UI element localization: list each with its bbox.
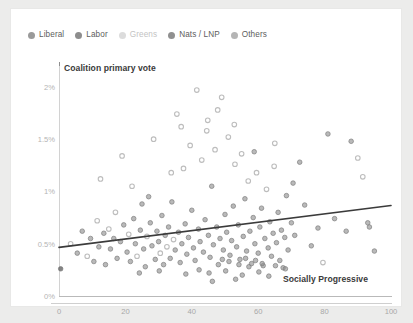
scatter-point [179, 124, 184, 129]
legend-item-nats-lnp[interactable]: Nats / LNP [168, 30, 220, 40]
x-tick-label: 60 [254, 307, 262, 316]
scatter-point [131, 216, 136, 221]
scatter-point [273, 141, 278, 146]
scatter-point [224, 230, 229, 235]
scatter-point [143, 264, 148, 269]
scatter-point [138, 228, 143, 233]
legend-item-label: Liberal [39, 30, 64, 40]
scatter-point [233, 277, 238, 282]
scatter-point [241, 234, 246, 239]
x-axis-baseline [51, 303, 392, 304]
scatter-point [180, 241, 185, 246]
scatter-point [186, 235, 191, 240]
legend-item-label: Nats / LNP [179, 30, 220, 40]
scatter-point [316, 226, 321, 231]
scatter-point [233, 162, 238, 167]
scatter-point [254, 170, 259, 175]
y-axis-ticks: 0%0.5%1%1.5%2% [11, 66, 55, 296]
chart-card: LiberalLaborGreensNats / LNPOthers Coali… [11, 9, 401, 306]
scatter-point [256, 251, 261, 256]
scatter-point [266, 246, 271, 251]
scatter-point [226, 135, 231, 140]
x-axis-line [59, 296, 392, 297]
legend-item-others[interactable]: Others [231, 30, 267, 40]
scatter-point [140, 202, 145, 207]
scatter-point [198, 239, 203, 244]
scatter-point [277, 258, 282, 263]
scatter-point [332, 216, 337, 221]
scatter-point [297, 160, 302, 165]
scatter-point [232, 122, 237, 127]
scatter-point [263, 236, 268, 241]
scatter-point [158, 251, 163, 256]
scatter-point [247, 264, 252, 269]
scatter-point [170, 200, 175, 205]
scatter-data-layer [59, 66, 391, 296]
scatter-point [103, 262, 108, 267]
scatter-point [291, 181, 296, 186]
scatter-point [146, 194, 151, 199]
legend-item-liberal[interactable]: Liberal [28, 30, 64, 40]
scatter-point [169, 170, 174, 175]
scatter-point [271, 231, 276, 236]
legend-swatch-icon [168, 32, 175, 39]
scatter-point [209, 184, 214, 189]
scatter-point [326, 132, 331, 137]
legend-item-labor[interactable]: Labor [75, 30, 107, 40]
legend-swatch-icon [231, 32, 238, 39]
scatter-point [367, 225, 372, 230]
legend-item-greens[interactable]: Greens [119, 30, 157, 40]
scatter-point [243, 256, 248, 261]
scatter-point [238, 257, 243, 262]
scatter-point [190, 208, 195, 213]
scatter-point [80, 229, 85, 234]
scatter-point [286, 248, 291, 253]
scatter-point [248, 229, 253, 234]
scatter-point [126, 232, 131, 237]
x-tick-label: 20 [121, 307, 129, 316]
scatter-point [168, 256, 173, 261]
scatter-point [260, 261, 265, 266]
scatter-point [92, 259, 97, 264]
scatter-point [165, 245, 170, 250]
scatter-point [210, 279, 215, 284]
y-tick-label: 1.5% [38, 135, 55, 144]
legend-swatch-icon [28, 32, 35, 39]
scatter-point [274, 240, 279, 245]
scatter-point [284, 193, 289, 198]
scatter-point [201, 250, 206, 255]
scatter-point [243, 196, 248, 201]
scatter-point [153, 257, 158, 262]
scatter-point [356, 156, 361, 161]
scatter-point [193, 258, 198, 263]
scatter-point [107, 227, 112, 232]
scatter-point [130, 184, 135, 189]
scatter-point [372, 249, 377, 254]
scatter-point [205, 118, 210, 123]
scatter-point [135, 254, 140, 259]
scatter-point [282, 235, 287, 240]
chart-page: LiberalLaborGreensNats / LNPOthers Coali… [0, 0, 413, 323]
scatter-point [207, 271, 212, 276]
x-tick-label: 0 [57, 307, 61, 316]
scatter-point [234, 245, 239, 250]
scatter-point [199, 158, 204, 163]
scatter-point [218, 236, 223, 241]
scatter-point [137, 271, 142, 276]
legend-item-label: Greens [130, 30, 157, 40]
scatter-point [267, 274, 272, 279]
scatter-point [223, 212, 228, 217]
x-tick-label: 100 [385, 307, 398, 316]
scatter-point [95, 218, 100, 223]
scatter-point [178, 260, 183, 265]
scatter-point [213, 147, 218, 152]
scatter-point [211, 242, 216, 247]
scatter-point [253, 241, 258, 246]
scatter-point [360, 175, 365, 180]
scatter-point [188, 143, 193, 148]
scatter-point [191, 246, 196, 251]
scatter-point [157, 269, 162, 274]
x-axis-ticks: 020406080100 [59, 307, 392, 319]
scatter-point [125, 250, 130, 255]
scatter-point [253, 258, 258, 263]
